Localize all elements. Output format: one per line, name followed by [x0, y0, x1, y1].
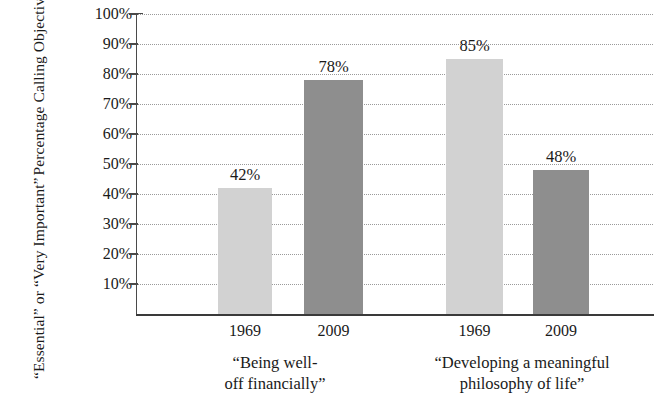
bar	[446, 59, 503, 314]
x-axis-tick-label: 2009	[284, 322, 383, 340]
bar	[304, 80, 363, 314]
bar-value-label: 48%	[521, 148, 601, 165]
gridline	[137, 14, 653, 15]
x-axis-tick-label: 2009	[513, 322, 609, 340]
x-axis-spine	[136, 314, 654, 316]
gridline	[137, 74, 653, 75]
x-axis-group-label: “Being well-off financially”	[170, 352, 380, 394]
y-axis-tick-label: 10%	[103, 276, 132, 292]
x-axis-group-label-line: off financially”	[170, 373, 380, 394]
gridline	[137, 134, 653, 135]
y-axis-tick-labels: 100%90%80%70%60%50%40%30%20%10%	[58, 0, 132, 330]
bar	[533, 170, 589, 314]
y-axis-tick	[129, 163, 138, 165]
y-axis-tick-label: 60%	[103, 126, 132, 142]
y-axis-tick	[129, 73, 138, 75]
y-axis-tick-label: 80%	[103, 66, 132, 82]
plot-area: 42%78%85%48%	[137, 14, 653, 314]
bar-value-label: 78%	[292, 58, 375, 75]
y-axis-tick-label: 40%	[103, 186, 132, 202]
y-axis-tick-label: 20%	[103, 246, 132, 262]
y-axis-tick	[129, 133, 138, 135]
y-axis-label-line-2: “Essential” or “Very Important”	[29, 177, 48, 379]
bar	[218, 188, 272, 314]
y-axis-tick	[129, 103, 138, 105]
x-axis-tick-label: 1969	[198, 322, 292, 340]
y-axis-tick-label: 30%	[103, 216, 132, 232]
x-axis-group-label-line: “Developing a meaningful	[382, 352, 662, 373]
y-axis-label-line-1: Percentage Calling Objective	[29, 0, 48, 175]
y-axis-tick	[129, 193, 138, 195]
y-axis-tick	[129, 283, 138, 285]
y-axis-tick-label: 70%	[103, 96, 132, 112]
y-axis-tick-label: 50%	[103, 156, 132, 172]
y-axis-tick	[129, 13, 138, 15]
gridline	[137, 104, 653, 105]
y-axis-tick	[129, 253, 138, 255]
gridline	[137, 44, 653, 45]
bar-value-label: 85%	[434, 37, 515, 54]
y-axis-tick	[129, 223, 138, 225]
x-axis-group-label-line: philosophy of life”	[382, 373, 662, 394]
bar-chart-figure: “Essential” or “Very Important” Percenta…	[0, 0, 668, 414]
y-axis-tick-label: 90%	[103, 36, 132, 52]
y-axis-tick-label: 100%	[95, 6, 132, 22]
x-axis-tick-label: 1969	[426, 322, 523, 340]
x-axis-group-label-line: “Being well-	[170, 352, 380, 373]
x-axis-group-label: “Developing a meaningfulphilosophy of li…	[382, 352, 662, 394]
bar-value-label: 42%	[206, 166, 284, 183]
y-axis-tick	[129, 43, 138, 45]
